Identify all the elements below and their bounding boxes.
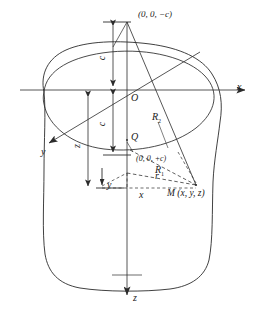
label-R2: R2 <box>152 112 161 124</box>
label-dim-y: y <box>107 180 111 190</box>
label-lower-source: (0, 0, +c) <box>136 155 166 163</box>
top-point-ray <box>113 22 127 47</box>
label-point-Q: Q <box>131 132 138 142</box>
label-axis-x: x <box>237 82 241 92</box>
label-point-M: M (x, y, z) <box>167 189 205 199</box>
label-dim-z: z <box>72 144 82 148</box>
label-r: r <box>155 171 159 181</box>
label-top-source: (0, 0, −c) <box>138 10 172 19</box>
label-R1-sub: 1 <box>161 171 164 177</box>
label-dim-x: x <box>139 190 143 200</box>
label-dim-c-upper: c <box>97 56 107 60</box>
diagram-canvas <box>0 0 269 316</box>
label-origin: O <box>131 93 138 103</box>
r2-to-m-dashed <box>178 152 196 183</box>
point-Q-marker <box>126 139 128 141</box>
label-dim-c-lower: c <box>97 122 107 126</box>
top-surface-ellipse <box>43 51 214 150</box>
label-axis-y: y <box>41 147 45 157</box>
y-axis <box>49 52 200 143</box>
lower-source-leader <box>127 142 133 152</box>
label-R2-sub: 2 <box>158 118 161 124</box>
body-outline <box>43 42 221 291</box>
dim-y-line <box>102 173 127 186</box>
label-axis-z: z <box>133 293 137 303</box>
